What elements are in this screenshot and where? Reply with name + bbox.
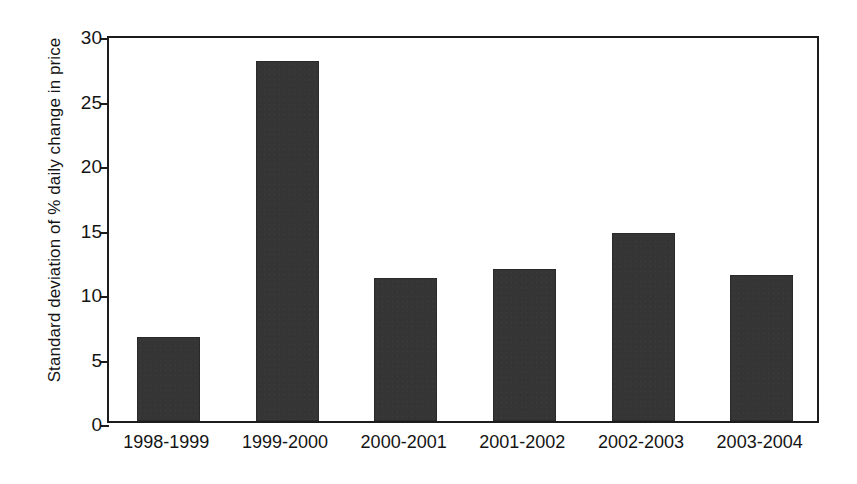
plot-area: 051015202530 [107, 36, 819, 423]
y-tick-label: 15 [81, 221, 102, 243]
bar [493, 269, 556, 421]
x-tick-label: 1999-2000 [242, 432, 328, 453]
bar [137, 337, 200, 421]
bar-chart: Standard deviation of % daily change in … [0, 0, 857, 484]
y-tick-label: 5 [91, 350, 102, 372]
bar [256, 61, 319, 421]
x-axis-tick-labels: 1998-19991999-20002000-20012001-20022002… [107, 432, 819, 462]
y-tick-label: 0 [91, 414, 102, 436]
x-tick-label: 2000-2001 [361, 432, 447, 453]
bar [612, 233, 675, 421]
bar [730, 275, 793, 421]
bars-layer [109, 38, 817, 421]
x-tick-label: 1998-1999 [123, 432, 209, 453]
x-tick-label: 2001-2002 [479, 432, 565, 453]
y-tick-label: 20 [81, 156, 102, 178]
x-tick-label: 2002-2003 [598, 432, 684, 453]
x-tick-label: 2003-2004 [717, 432, 803, 453]
y-tick-label: 25 [81, 92, 102, 114]
y-axis-title: Standard deviation of % daily change in … [45, 0, 65, 420]
y-tick-label: 10 [81, 285, 102, 307]
y-tick-label: 30 [81, 27, 102, 49]
bar [374, 278, 437, 421]
